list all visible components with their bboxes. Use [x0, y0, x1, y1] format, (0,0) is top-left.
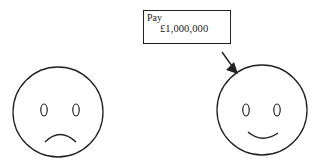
pay-label: Pay — [147, 12, 162, 23]
sad-face-icon — [13, 67, 103, 157]
cheque-amount: £1,000,000 — [160, 23, 208, 34]
happy-face-icon — [217, 65, 307, 155]
diagram-canvas: Pay £1,000,000 — [0, 0, 319, 167]
cheque: Pay £1,000,000 — [143, 10, 231, 44]
arrow-icon — [222, 52, 238, 74]
